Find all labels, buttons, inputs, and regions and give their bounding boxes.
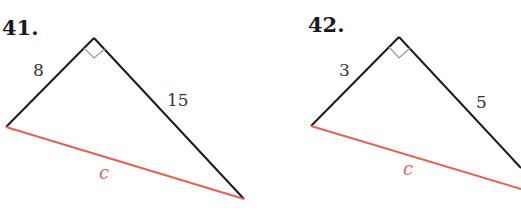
leg-label-5: 5	[476, 92, 487, 112]
problem-number-41: 41.	[2, 15, 39, 40]
leg-8	[6, 38, 94, 127]
leg-15	[94, 38, 244, 199]
leg-label-15: 15	[167, 90, 189, 110]
hypotenuse-c	[6, 127, 244, 199]
leg-3	[311, 37, 399, 126]
hypotenuse-label: c	[403, 158, 413, 179]
hypotenuse-label: c	[99, 162, 109, 183]
right-angle-mark	[389, 47, 410, 58]
leg-label-8: 8	[33, 60, 44, 80]
leg-label-3: 3	[339, 60, 350, 80]
problem-number-42: 42.	[308, 12, 345, 37]
triangles-figure	[0, 0, 521, 224]
right-angle-mark	[84, 48, 105, 58]
leg-5	[399, 37, 521, 168]
